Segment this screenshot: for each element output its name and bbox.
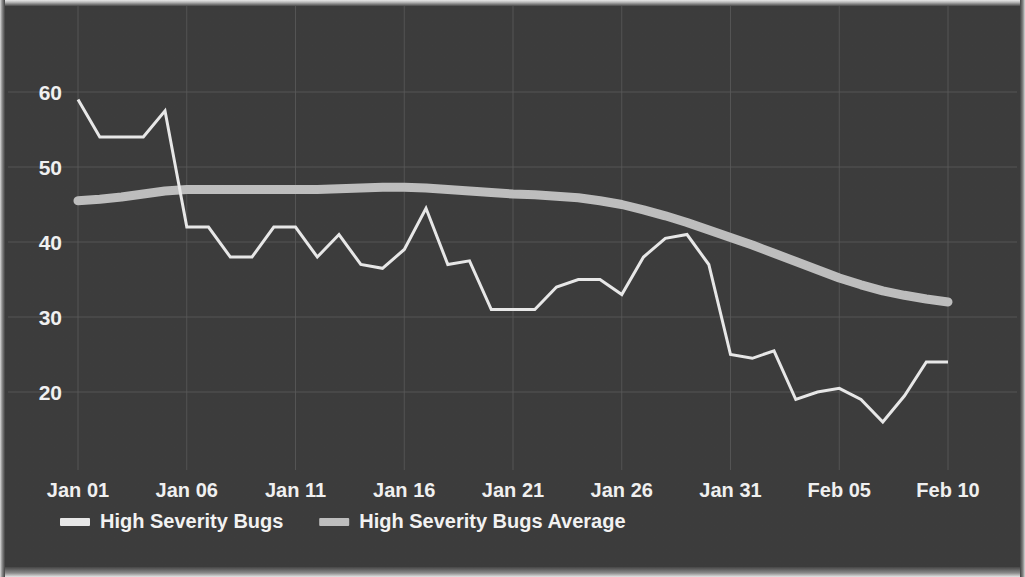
x-axis-tick-label: Jan 21 <box>482 479 544 501</box>
y-axis-tick-label: 30 <box>39 306 62 329</box>
chart-container: 6050403020 Jan 01Jan 06Jan 11Jan 16Jan 2… <box>0 0 1025 577</box>
y-axis-tick-label: 20 <box>39 381 62 404</box>
x-axis-tick-label: Feb 05 <box>808 479 871 501</box>
x-axis-tick-label: Jan 26 <box>591 479 653 501</box>
legend-label: High Severity Bugs Average <box>359 510 625 532</box>
x-axis-tick-label: Jan 06 <box>156 479 218 501</box>
bottom-edge-bleed <box>0 567 1025 577</box>
right-edge-bleed <box>1020 0 1025 577</box>
legend-swatch-icon <box>60 518 90 526</box>
left-edge-bleed <box>0 0 5 577</box>
legend-item[interactable]: High Severity Bugs Average <box>319 510 625 532</box>
legend-label: High Severity Bugs <box>100 510 283 532</box>
x-axis-tick-label: Jan 01 <box>47 479 109 501</box>
x-axis-tick-label: Jan 16 <box>373 479 435 501</box>
y-axis-tick-label: 60 <box>39 81 62 104</box>
y-axis-tick-label: 50 <box>39 156 62 179</box>
top-edge-bleed <box>0 0 1025 6</box>
y-axis-tick-label: 40 <box>39 231 62 254</box>
x-axis-tick-labels: Jan 01Jan 06Jan 11Jan 16Jan 21Jan 26Jan … <box>47 479 980 501</box>
x-axis-tick-label: Feb 10 <box>916 479 979 501</box>
line-chart: 6050403020 Jan 01Jan 06Jan 11Jan 16Jan 2… <box>0 0 1025 577</box>
x-axis-tick-label: Jan 31 <box>699 479 761 501</box>
legend-swatch-icon <box>319 518 349 526</box>
x-axis-tick-label: Jan 11 <box>265 479 326 501</box>
